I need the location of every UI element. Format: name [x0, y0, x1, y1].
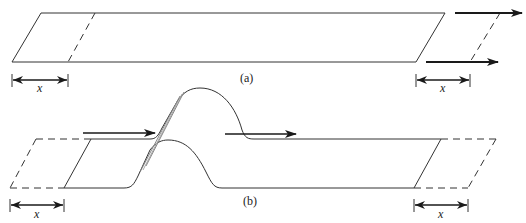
block-a-left-dashed-line	[68, 13, 95, 62]
panel-a-label: (a)	[240, 71, 253, 85]
dimension-b-left-label: x	[33, 207, 40, 221]
wrinkle-fold-line-3	[146, 92, 184, 166]
block-a-left-edge	[12, 13, 41, 62]
block-b-left-dashed-edge	[10, 139, 36, 188]
top-layer-wrinkle	[91, 88, 441, 139]
dislocation-diagram: x x (a) x	[0, 0, 526, 223]
wrinkle-fold-line-1	[140, 96, 180, 172]
dimension-a-left-label: x	[36, 81, 43, 95]
block-b-left-edge	[64, 139, 91, 188]
bottom-layer-bump	[64, 140, 414, 188]
block-b-right-dashed-edge	[468, 139, 496, 188]
wrinkle-fold-line-2	[143, 94, 182, 170]
panel-b	[10, 88, 496, 188]
dimension-b-right-label: x	[437, 207, 444, 221]
block-a-right-dashed-line	[470, 13, 500, 62]
dimension-a-right-label: x	[439, 81, 446, 95]
block-b-right-edge	[414, 139, 441, 188]
block-a-right-edge	[416, 13, 445, 62]
panel-a	[12, 13, 500, 62]
panel-b-label: (b)	[243, 194, 257, 208]
